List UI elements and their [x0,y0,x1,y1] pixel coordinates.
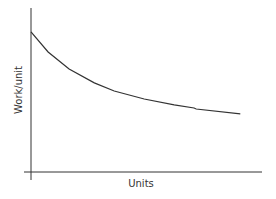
chart-canvas [0,0,276,199]
series-line [31,32,240,114]
y-axis-label: Work/unit [13,66,24,114]
chart: Work/unit Units [0,0,276,199]
x-axis-label: Units [128,178,154,189]
